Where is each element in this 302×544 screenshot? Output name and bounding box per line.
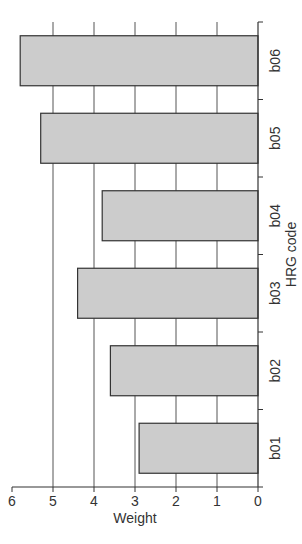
category-label-b02: b02 — [267, 359, 283, 383]
category-tick-labels: b01b02b03b04b05b06 — [267, 49, 283, 460]
axes — [12, 22, 263, 492]
value-tick-labels: 0123456 — [8, 493, 262, 509]
category-label-b04: b04 — [267, 204, 283, 228]
gridlines — [53, 22, 217, 487]
category-label-b03: b03 — [267, 281, 283, 305]
bar-b05 — [41, 113, 258, 163]
bar-b01 — [139, 423, 258, 473]
value-label-6: 6 — [8, 493, 16, 509]
bar-b04 — [102, 191, 258, 241]
value-label-0: 0 — [254, 493, 262, 509]
category-label-b05: b05 — [267, 126, 283, 150]
bar-b03 — [78, 268, 258, 318]
y-axis-title: Weight — [113, 510, 156, 526]
chart-canvas: b01b02b03b04b05b06 0123456 HRG code Weig… — [0, 0, 302, 544]
category-label-b06: b06 — [267, 49, 283, 73]
bar-b06 — [20, 36, 258, 86]
x-axis-title: HRG code — [283, 222, 299, 288]
value-label-1: 1 — [213, 493, 221, 509]
value-label-5: 5 — [49, 493, 57, 509]
value-label-2: 2 — [172, 493, 180, 509]
bar-chart: b01b02b03b04b05b06 0123456 HRG code Weig… — [0, 0, 302, 544]
value-label-4: 4 — [90, 493, 98, 509]
value-label-3: 3 — [131, 493, 139, 509]
bars — [20, 36, 258, 474]
bar-b02 — [110, 346, 258, 396]
category-label-b01: b01 — [267, 436, 283, 460]
